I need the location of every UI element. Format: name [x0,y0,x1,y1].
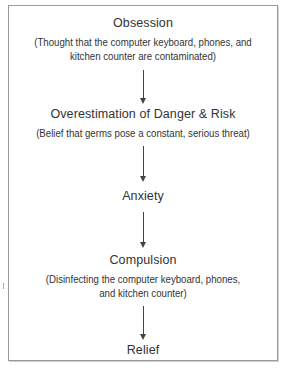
arrow-head-icon [140,176,146,182]
node-relief: Relief [9,343,277,358]
margin-mark [3,283,4,289]
node-compulsion: Compulsion (Disinfecting the computer ke… [9,253,277,300]
node-relief-title: Relief [9,343,277,358]
arrow-head-icon [140,242,146,248]
arrow-head-icon [140,334,146,340]
node-overestimation: Overestimation of Danger & Risk (Belief … [9,107,277,140]
arrow-head-icon [140,98,146,104]
node-overestimation-title: Overestimation of Danger & Risk [9,107,277,122]
node-obsession-description-line-1: (Thought that the computer keyboard, pho… [20,35,267,49]
node-compulsion-description-line-1: (Disinfecting the computer keyboard, pho… [20,272,267,286]
arrow-shaft [143,306,144,336]
arrow-shaft [143,70,144,100]
node-compulsion-title: Compulsion [9,253,277,268]
node-obsession-title: Obsession [9,16,277,31]
node-compulsion-description-line-2: and kitchen counter) [20,286,267,300]
node-obsession-description-line-2: kitchen counter are contaminated) [20,49,267,63]
arrow-shaft [143,212,144,244]
node-obsession: Obsession (Thought that the computer key… [9,16,277,63]
node-anxiety-title: Anxiety [9,189,277,204]
node-overestimation-description-line-1: (Belief that germs pose a constant, seri… [20,126,267,140]
arrow-shaft [143,146,144,178]
node-anxiety: Anxiety [9,189,277,204]
flowchart-frame: Obsession (Thought that the computer key… [8,5,278,361]
